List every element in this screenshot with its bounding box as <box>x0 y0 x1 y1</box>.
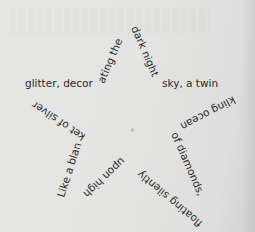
poem-segment-ket-of-silver: ket of silver <box>29 99 87 144</box>
paper-photo: glitter, decor ating the dark night sky,… <box>0 0 255 232</box>
poem-segment-of-diamonds: of diamonds, <box>169 130 207 197</box>
poem-segment-upon-high: upon high <box>81 156 128 201</box>
poem-segment-glitter: glitter, decor <box>25 77 94 89</box>
poem-segment-ating: ating the <box>95 36 125 84</box>
star-shape-poem: glitter, decor ating the dark night sky,… <box>0 0 255 232</box>
poem-segment-like-a-blan: Like a blan <box>54 141 83 199</box>
poem-segment-sky: sky, a twin <box>162 77 218 89</box>
poem-segment-dark-night: dark night <box>129 24 161 78</box>
poem-segment-kling-ocean: kling ocean <box>179 94 238 133</box>
